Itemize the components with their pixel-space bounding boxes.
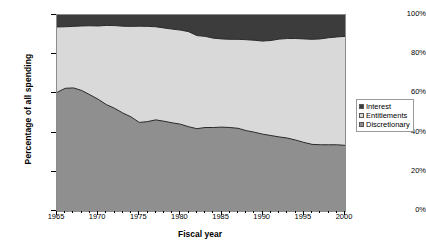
x-tick-mark-major — [221, 211, 222, 215]
x-tick-mark-minor — [89, 211, 90, 213]
legend-label: Interest — [366, 102, 391, 111]
x-tick-mark-minor — [114, 211, 115, 213]
legend-item[interactable]: Interest — [359, 102, 410, 111]
x-tick-mark-minor — [245, 211, 246, 213]
x-tick-mark-minor — [253, 211, 254, 213]
x-tick-mark-minor — [130, 211, 131, 213]
x-tick-mark-minor — [237, 211, 238, 213]
x-tick-mark-major — [344, 211, 345, 215]
x-tick-mark-minor — [155, 211, 156, 213]
legend-label: Discretionary — [366, 120, 410, 129]
y-tick-label: 100% — [382, 10, 426, 18]
x-tick-mark-major — [179, 211, 180, 215]
x-tick-mark-minor — [81, 211, 82, 213]
legend-item[interactable]: Discretionary — [359, 120, 410, 129]
legend-label: Entitlements — [366, 111, 407, 120]
y-tick-label: 0% — [382, 206, 426, 214]
y-axis-title: Percentage of all spending — [23, 19, 33, 199]
x-tick-mark-minor — [196, 211, 197, 213]
x-tick-mark-minor — [163, 211, 164, 213]
x-tick-mark-minor — [319, 211, 320, 213]
x-tick-mark-minor — [122, 211, 123, 213]
x-tick-mark-minor — [286, 211, 287, 213]
legend-item[interactable]: Entitlements — [359, 111, 410, 120]
legend-swatch-icon — [359, 104, 364, 109]
plot-area — [56, 14, 346, 212]
x-tick-mark-major — [97, 211, 98, 215]
x-tick-mark-major — [303, 211, 304, 215]
x-tick-mark-minor — [64, 211, 65, 213]
legend-swatch-icon — [359, 113, 364, 118]
x-tick-mark-minor — [328, 211, 329, 213]
y-tick-label: 80% — [382, 49, 426, 57]
x-axis-title: Fiscal year — [56, 229, 344, 239]
x-tick-mark-minor — [72, 211, 73, 213]
x-tick-mark-minor — [105, 211, 106, 213]
plot-svg — [57, 15, 345, 211]
x-tick-mark-minor — [204, 211, 205, 213]
x-tick-mark-minor — [336, 211, 337, 213]
x-tick-mark-major — [138, 211, 139, 215]
x-tick-mark-minor — [311, 211, 312, 213]
x-tick-mark-minor — [188, 211, 189, 213]
x-tick-mark-major — [262, 211, 263, 215]
x-tick-mark-minor — [212, 211, 213, 213]
chart-legend: InterestEntitlementsDiscretionary — [356, 99, 414, 132]
stacked-area-chart: Percentage of all spending 0%20%40%60%80… — [0, 0, 426, 250]
y-tick-label: 20% — [382, 167, 426, 175]
x-tick-mark-minor — [171, 211, 172, 213]
x-tick-mark-minor — [229, 211, 230, 213]
x-tick-mark-major — [56, 211, 57, 215]
x-tick-mark-minor — [147, 211, 148, 213]
legend-swatch-icon — [359, 122, 364, 127]
x-tick-mark-minor — [278, 211, 279, 213]
x-tick-mark-minor — [270, 211, 271, 213]
x-tick-mark-minor — [295, 211, 296, 213]
y-tick-label: 60% — [382, 88, 426, 96]
